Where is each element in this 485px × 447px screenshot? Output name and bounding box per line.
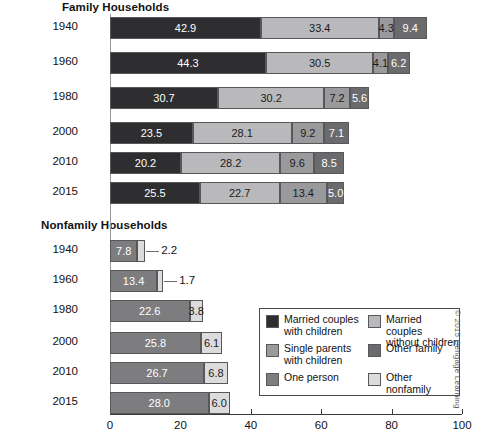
bar-segment[interactable] [137,240,145,262]
bar-segment[interactable]: 25.5 [110,182,200,204]
segment-value-label: 5.6 [352,92,367,104]
bar-row: 200023.528.19.27.1 [0,122,485,144]
bar-segment[interactable]: 13.4 [110,270,157,292]
x-tick-label-40: 40 [244,419,257,431]
segment-value-label: 26.7 [146,367,167,379]
bar-segment[interactable]: 4.3 [379,17,394,39]
bar-row: 196044.330.54.16.2 [0,52,485,74]
legend-swatch-icon [368,315,381,328]
bar-segment[interactable]: 7.8 [110,240,137,262]
bar-row: 201020.228.29.68.5 [0,152,485,174]
legend-item[interactable]: Other family [368,343,443,357]
bar-row: 194042.933.44.39.4 [0,17,485,39]
bar-segment[interactable]: 6.8 [204,362,228,384]
year-label-2010: 2010 [52,155,78,167]
bar-row: 201525.522.713.45.0 [0,182,485,204]
year-label-1980: 1980 [52,90,78,102]
bar-segment[interactable]: 3.8 [190,300,203,322]
bar-segment[interactable]: 25.8 [110,332,201,354]
x-tick-label-100: 100 [452,419,471,431]
legend-label: Married couples with children [284,314,359,337]
legend-label: One person [284,372,339,384]
bar-segment[interactable]: 20.2 [110,152,181,174]
x-tick-label-20: 20 [174,419,187,431]
bar-segment[interactable]: 30.2 [218,87,324,109]
legend-label: Single parents with children [284,343,351,366]
bar-segment[interactable]: 22.6 [110,300,190,322]
legend-item[interactable]: One person [266,372,339,386]
bar-segment[interactable]: 13.4 [280,182,327,204]
bar-segment[interactable] [157,270,163,292]
year-label-1940: 1940 [52,243,78,255]
bar-segment[interactable]: 28.0 [110,392,209,414]
segment-value-label: 28.1 [231,127,252,139]
segment-value-label: 25.8 [145,337,166,349]
segment-value-label: 30.2 [261,92,282,104]
y-axis-line [110,14,111,414]
segment-value-label: 23.5 [141,127,162,139]
leader-line [146,251,159,252]
segment-value-label: 9.6 [290,157,305,169]
bar-segment[interactable]: 42.9 [110,17,261,39]
x-tick-label-60: 60 [315,419,328,431]
legend-item[interactable]: Married couples with children [266,314,359,337]
bar-segment[interactable]: 6.0 [209,392,230,414]
x-tick-label-0: 0 [107,419,113,431]
year-label-2000: 2000 [52,125,78,137]
bar-segment[interactable]: 7.2 [324,87,349,109]
legend-swatch-icon [266,315,279,328]
legend-swatch-icon [368,373,381,386]
segment-value-label: 30.5 [309,57,330,69]
segment-value-label: 4.1 [373,57,388,69]
segment-value-label: 7.1 [329,127,344,139]
segment-value-label: 44.3 [177,57,198,69]
x-tick-label-80: 80 [385,419,398,431]
segment-value-label: 6.8 [208,367,223,379]
year-label-1940: 1940 [52,20,78,32]
segment-value-label: 5.0 [328,187,343,199]
segment-value-label: 28.2 [220,157,241,169]
year-label-2015: 2015 [52,185,78,197]
legend-swatch-icon [266,373,279,386]
bar-segment[interactable]: 26.7 [110,362,204,384]
bar-row: 19407.82.2 [0,240,485,262]
nonfamily-households-title: Nonfamily Households [41,219,168,231]
bar-segment[interactable]: 7.1 [324,122,349,144]
segment-value-label: 7.2 [329,92,344,104]
legend-item[interactable]: Single parents with children [266,343,351,366]
bar-row: 196013.41.7 [0,270,485,292]
segment-value-label: 28.0 [149,397,170,409]
bar-segment[interactable]: 8.5 [314,152,344,174]
bar-segment[interactable]: 4.1 [373,52,387,74]
bar-segment[interactable]: 9.2 [292,122,324,144]
segment-value-label: 22.7 [229,187,250,199]
bar-segment[interactable]: 6.2 [388,52,410,74]
bar-segment[interactable]: 9.4 [394,17,427,39]
segment-value-label: 20.2 [135,157,156,169]
bar-segment[interactable]: 28.2 [181,152,280,174]
year-label-1980: 1980 [52,303,78,315]
segment-value-label: 13.4 [123,275,144,287]
segment-value-label: 13.4 [293,187,314,199]
year-label-1960: 1960 [52,55,78,67]
bar-segment[interactable]: 30.5 [266,52,373,74]
bar-segment[interactable]: 44.3 [110,52,266,74]
legend: Married couples with childrenMarried cou… [259,308,460,396]
legend-item[interactable]: Other nonfamily [368,372,459,395]
year-label-1960: 1960 [52,273,78,285]
bar-segment[interactable]: 6.1 [201,332,222,354]
bar-segment[interactable]: 30.7 [110,87,218,109]
bar-segment[interactable]: 23.5 [110,122,193,144]
bar-segment[interactable]: 9.6 [280,152,314,174]
bar-segment[interactable]: 28.1 [193,122,292,144]
segment-value-label: 6.1 [204,337,219,349]
legend-label: Other nonfamily [386,372,459,395]
segment-value-label: 42.9 [175,22,196,34]
bar-segment[interactable]: 33.4 [261,17,379,39]
bar-segment[interactable]: 22.7 [200,182,280,204]
bar-segment[interactable]: 5.6 [350,87,370,109]
copyright-notice: © 2015 Cengage Learning [453,310,462,409]
x-axis-line [110,414,462,415]
segment-value-label: 4.3 [378,22,393,34]
bar-segment[interactable]: 5.0 [327,182,345,204]
